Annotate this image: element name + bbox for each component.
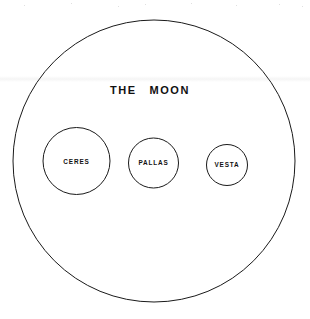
ceres-label: CERES — [63, 158, 89, 165]
diagram-canvas: THE MOON CERES PALLAS VESTA — [0, 0, 310, 319]
scale-comparison-diagram: THE MOON CERES PALLAS VESTA — [0, 0, 310, 319]
vesta-label: VESTA — [214, 161, 239, 168]
pallas-label: PALLAS — [138, 159, 168, 166]
moon-label: THE MOON — [110, 84, 190, 96]
